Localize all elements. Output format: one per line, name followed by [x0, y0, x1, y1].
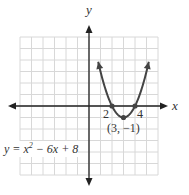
x-axis-label: x [172, 98, 178, 114]
equation-prefix: y = x [4, 142, 29, 156]
y-axis-label: y [86, 2, 92, 18]
parabola-graph [0, 0, 189, 195]
root-label-4: 4 [137, 107, 143, 122]
vertex-label: (3, −1) [107, 121, 140, 136]
equation-label: y = x2 − 6x + 8 [4, 141, 78, 157]
equation-suffix: − 6x + 8 [33, 142, 79, 156]
root-label-2: 2 [103, 107, 109, 122]
